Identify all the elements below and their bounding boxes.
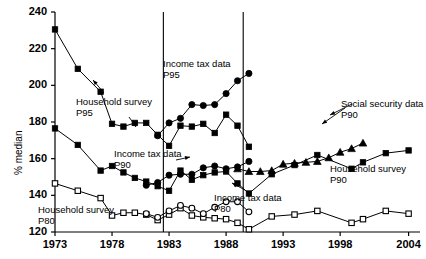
annotation-household-survey-p90: Household survey P90 (330, 163, 406, 185)
data-point-marker (75, 142, 80, 147)
data-point-marker (212, 101, 218, 107)
data-point-marker (121, 210, 126, 215)
data-point-marker (223, 216, 228, 221)
data-point-marker (315, 152, 320, 157)
annotation-arrow-head (330, 111, 335, 115)
annotation-household-survey-p95: Household survey P95 (76, 96, 152, 118)
data-point-marker (189, 101, 195, 107)
annotation-income-tax-data-p95: Income tax data P95 (163, 58, 231, 80)
data-point-marker (132, 175, 137, 180)
data-point-marker (178, 123, 183, 128)
data-point-marker (200, 211, 206, 217)
data-point-marker (268, 167, 276, 174)
data-point-marker (246, 70, 252, 76)
data-point-marker (155, 214, 161, 220)
data-point-marker (349, 220, 354, 225)
data-point-marker (189, 213, 194, 218)
series-household-survey-p95 (52, 27, 251, 150)
data-point-marker (406, 148, 411, 153)
data-point-marker (360, 216, 365, 221)
annotation-income-tax-data-p90: Income tax data P90 (114, 148, 182, 170)
data-point-marker (52, 126, 57, 131)
data-point-marker (189, 177, 194, 182)
data-point-marker (292, 212, 297, 217)
data-point-marker (177, 171, 183, 177)
data-point-marker (383, 150, 388, 155)
data-point-marker (177, 115, 183, 121)
data-point-marker (201, 172, 206, 177)
data-point-marker (178, 203, 184, 209)
data-point-marker (75, 66, 80, 71)
data-point-marker (223, 90, 229, 96)
data-point-marker (166, 120, 172, 126)
x-tick-label: 1988 (202, 238, 250, 250)
x-tick-label: 1973 (31, 238, 79, 250)
y-tick-label: 200 (5, 78, 47, 90)
data-point-marker (223, 112, 228, 117)
data-point-marker (212, 216, 217, 221)
data-point-marker (325, 154, 333, 161)
data-point-marker (98, 195, 103, 200)
data-point-marker (201, 121, 206, 126)
data-point-marker (246, 158, 252, 164)
data-point-marker (121, 124, 126, 129)
data-point-marker (166, 208, 172, 214)
data-point-marker (315, 208, 320, 213)
data-point-marker (235, 123, 240, 128)
data-point-marker (269, 214, 274, 219)
data-point-marker (235, 220, 240, 225)
x-tick-label: 1978 (88, 238, 136, 250)
data-point-marker (359, 139, 367, 146)
data-point-marker (155, 179, 161, 185)
data-point-marker (246, 144, 251, 149)
data-point-marker (223, 166, 229, 172)
data-point-marker (166, 172, 172, 178)
y-tick-label: 160 (5, 152, 47, 164)
x-tick-label: 1998 (316, 238, 364, 250)
data-point-marker (52, 181, 57, 186)
data-point-marker (75, 188, 80, 193)
data-point-marker (52, 27, 57, 32)
data-point-marker (144, 120, 149, 125)
y-tick-label: 180 (5, 115, 47, 127)
data-point-marker (189, 171, 195, 177)
y-tick-label: 120 (5, 225, 47, 237)
data-point-marker (200, 165, 206, 171)
x-tick-label: 1983 (145, 238, 193, 250)
data-point-marker (132, 210, 137, 215)
annotation-household-survey-p80: Household survey P80 (38, 204, 114, 226)
data-point-marker (212, 130, 217, 135)
data-point-marker (189, 124, 194, 129)
data-point-marker (212, 170, 217, 175)
data-point-marker (406, 211, 411, 216)
data-point-marker (200, 102, 206, 108)
data-point-marker (348, 145, 356, 152)
data-point-marker (212, 163, 218, 169)
annotation-arrow-head (185, 156, 190, 160)
data-point-marker (98, 168, 103, 173)
data-point-marker (155, 133, 161, 139)
chart-container: % median 120140160180200220240 197319781… (0, 0, 426, 259)
y-tick-label: 140 (5, 188, 47, 200)
y-tick-label: 240 (5, 5, 47, 17)
y-tick-label: 220 (5, 42, 47, 54)
data-point-marker (383, 208, 388, 213)
annotation-income-tax-data-p80: Income tax data P80 (214, 192, 282, 214)
data-point-marker (109, 121, 114, 126)
data-point-marker (234, 78, 240, 84)
annotation-arrow-head (322, 120, 327, 124)
x-tick-label: 2004 (385, 238, 426, 250)
data-point-marker (246, 227, 251, 232)
data-point-marker (121, 170, 126, 175)
annotation-social-security-p90: Social security data P90 (341, 98, 423, 120)
data-point-marker (143, 211, 149, 217)
series-line (55, 29, 249, 146)
data-point-marker (166, 188, 171, 193)
data-point-marker (143, 182, 149, 188)
data-point-marker (189, 205, 195, 211)
series-household-survey-p90 (52, 126, 411, 196)
x-tick-label: 1993 (259, 238, 307, 250)
